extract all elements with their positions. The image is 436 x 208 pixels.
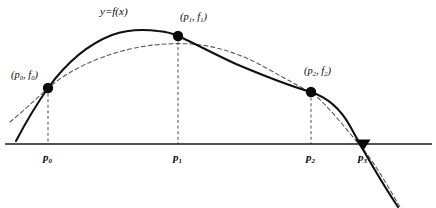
tick-label-p2-sub: 2 xyxy=(312,157,315,164)
node-label-p1-sub: 1 xyxy=(189,16,192,23)
tick-label-p0-base: p xyxy=(43,151,49,163)
figure-canvas: y=f(x) (p0, f0) (p1, f1) (p2, f2) p0 p1 … xyxy=(0,0,436,208)
interpolating-curve-dashed xyxy=(10,44,400,207)
node-label-p0: (p0, f0) xyxy=(11,70,38,81)
node-marker-p1 xyxy=(173,31,183,41)
node-label-p2: (p2, f2) xyxy=(304,66,331,77)
node-label-p2-base: p xyxy=(308,65,313,76)
tick-label-p1: p1 xyxy=(173,152,182,163)
node-label-p1-f-sub: 1 xyxy=(200,16,203,23)
function-curve-solid xyxy=(16,30,398,207)
tick-label-p2-base: p xyxy=(306,151,312,163)
tick-label-p1-base: p xyxy=(173,151,179,163)
tick-label-p3: p3 xyxy=(358,152,367,163)
tick-label-p1-sub: 1 xyxy=(179,157,182,164)
droplines-group xyxy=(48,36,311,144)
tick-label-p3-base: p xyxy=(358,151,364,163)
node-label-p2-f-sub: 2 xyxy=(324,70,327,77)
node-label-p0-f-sub: 0 xyxy=(31,74,34,81)
figure-svg xyxy=(0,0,436,208)
tick-label-p3-sub: 3 xyxy=(364,157,367,164)
node-marker-p2 xyxy=(306,87,316,97)
node-label-p1: (p1, f1) xyxy=(180,12,207,23)
node-label-p0-sub: 0 xyxy=(20,74,23,81)
node-label-p2-sub: 2 xyxy=(313,70,316,77)
node-marker-p0 xyxy=(43,83,53,93)
tick-label-p0-sub: 0 xyxy=(49,157,52,164)
node-label-p1-base: p xyxy=(184,11,189,22)
tick-label-p2: p2 xyxy=(306,152,315,163)
node-label-p0-base: p xyxy=(15,69,20,80)
tick-label-p0: p0 xyxy=(43,152,52,163)
root-marker-p3-triangle-icon xyxy=(356,140,371,152)
curve-label-y-equals-f-of-x: y=f(x) xyxy=(100,6,128,17)
